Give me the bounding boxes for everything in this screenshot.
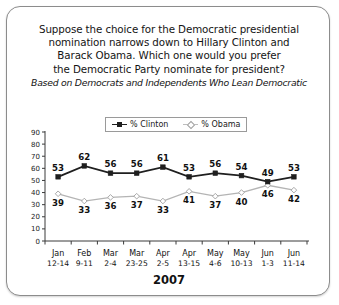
- chart-card: Suppose the choice for the Democratic pr…: [6, 6, 330, 296]
- x-tick-month: Jun: [287, 249, 301, 258]
- legend-marker-clinton-icon: [112, 120, 127, 129]
- data-point: [55, 191, 61, 197]
- series-line-clinton: [58, 166, 294, 182]
- x-tick-month: Mar: [129, 249, 145, 258]
- legend-marker-obama-icon: [183, 120, 198, 129]
- legend-item-obama[interactable]: % Obama: [183, 120, 240, 129]
- data-label: 56: [105, 159, 117, 169]
- data-point: [82, 198, 88, 204]
- svg-text:90: 90: [31, 129, 40, 137]
- x-axis-year-label: 2007: [7, 273, 331, 287]
- x-tick-days: 4-6: [209, 259, 222, 268]
- svg-text:70: 70: [31, 153, 40, 161]
- data-label: 37: [131, 200, 143, 210]
- data-label: 46: [262, 189, 274, 199]
- legend-label-obama: % Obama: [201, 120, 240, 129]
- chart-subtitle: Based on Democrats and Independents Who …: [17, 76, 321, 90]
- x-tick-days: 2-5: [157, 259, 170, 268]
- data-label: 56: [209, 159, 221, 169]
- data-label: 41: [183, 195, 195, 205]
- title-line-3: Barack Obama. Which one would you prefer: [17, 49, 321, 62]
- data-label: 39: [52, 198, 64, 208]
- data-label: 42: [288, 194, 300, 204]
- title-line-2: nomination narrows down to Hillary Clint…: [17, 36, 321, 49]
- data-point: [291, 187, 297, 193]
- series-line-obama: [58, 185, 294, 201]
- x-tick-month: Mar: [103, 249, 119, 258]
- chart-legend: % Clinton % Obama: [105, 117, 247, 132]
- data-point: [239, 190, 245, 196]
- svg-text:50: 50: [31, 177, 40, 185]
- data-label: 49: [262, 168, 274, 178]
- x-tick-month: Feb: [77, 249, 91, 258]
- data-label: 33: [157, 205, 169, 215]
- svg-text:40: 40: [31, 189, 40, 197]
- data-label: 40: [236, 197, 248, 207]
- data-label: 53: [52, 163, 64, 173]
- data-point: [265, 182, 271, 188]
- x-tick-days: 12-14: [47, 259, 69, 268]
- x-tick-days: 2-4: [104, 259, 117, 268]
- title-line-1: Suppose the choice for the Democratic pr…: [17, 23, 321, 36]
- x-tick-month: Jan: [51, 249, 64, 258]
- x-tick-month: Apr: [156, 249, 171, 258]
- data-label: 53: [288, 163, 300, 173]
- data-label: 33: [78, 205, 90, 215]
- data-point: [56, 175, 61, 180]
- x-tick-month: May: [233, 249, 250, 258]
- data-point: [186, 189, 192, 195]
- svg-text:10: 10: [31, 225, 40, 233]
- x-tick-days: 23-25: [126, 259, 148, 268]
- data-point: [213, 193, 219, 199]
- data-point: [265, 179, 270, 184]
- legend-item-clinton[interactable]: % Clinton: [112, 120, 168, 129]
- x-tick-month: Jun: [260, 249, 274, 258]
- data-point: [108, 195, 114, 201]
- x-tick-days: 13-15: [178, 259, 200, 268]
- data-point: [213, 171, 218, 176]
- data-point: [292, 175, 297, 180]
- legend-label-clinton: % Clinton: [130, 120, 168, 129]
- data-point: [108, 171, 113, 176]
- svg-text:20: 20: [31, 213, 40, 221]
- data-point: [187, 175, 192, 180]
- data-label: 37: [209, 200, 221, 210]
- data-point: [239, 173, 244, 178]
- x-tick-month: Apr: [182, 249, 197, 258]
- data-point: [82, 164, 87, 169]
- data-label: 36: [105, 201, 117, 211]
- data-point: [134, 193, 140, 199]
- data-point: [134, 171, 139, 176]
- data-label: 62: [78, 152, 90, 162]
- data-label: 56: [131, 159, 143, 169]
- data-point: [160, 198, 166, 204]
- x-tick-days: 11-14: [283, 259, 305, 268]
- svg-text:0: 0: [36, 238, 40, 246]
- data-label: 54: [236, 162, 248, 172]
- svg-text:60: 60: [31, 165, 40, 173]
- title-line-4: the Democratic Party nominate for presid…: [17, 63, 321, 76]
- x-tick-days: 9-11: [76, 259, 93, 268]
- x-tick-days: 1-3: [261, 259, 274, 268]
- data-label: 61: [157, 153, 169, 163]
- x-tick-days: 10-13: [230, 259, 252, 268]
- data-point: [161, 165, 166, 170]
- svg-text:30: 30: [31, 201, 40, 209]
- svg-text:80: 80: [31, 141, 40, 149]
- chart-title-block: Suppose the choice for the Democratic pr…: [17, 23, 321, 90]
- x-tick-month: May: [207, 249, 224, 258]
- data-label: 53: [183, 163, 195, 173]
